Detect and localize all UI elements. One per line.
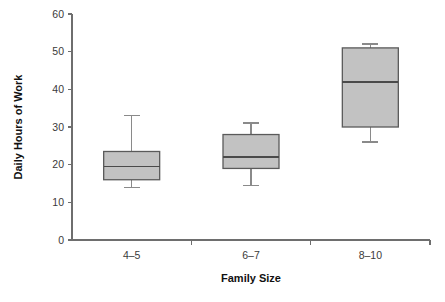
box-body: [223, 135, 279, 169]
y-axis-tick-label: 30: [52, 121, 64, 133]
y-axis-tick-label: 10: [52, 196, 64, 208]
box-plot-item: [104, 116, 160, 188]
x-axis-title: Family Size: [221, 272, 281, 284]
y-axis-tick-label: 0: [58, 234, 64, 246]
box-plot-item: [223, 123, 279, 185]
y-axis-tick-label: 50: [52, 45, 64, 57]
box-series: [104, 44, 399, 187]
chart-canvas: 0102030405060 4–56–78–10 Family SizeDail…: [0, 0, 445, 302]
y-axis-tick-label: 40: [52, 83, 64, 95]
y-axis-tick-label: 60: [52, 8, 64, 20]
box-plot-chart: 0102030405060 4–56–78–10 Family SizeDail…: [0, 0, 445, 302]
x-axis: 4–56–78–10: [72, 240, 430, 261]
x-axis-tick-label: 8–10: [359, 249, 383, 261]
box-body: [104, 151, 160, 179]
box-plot-item: [342, 44, 398, 142]
box-body: [342, 48, 398, 127]
x-axis-tick-label: 4–5: [123, 249, 141, 261]
x-axis-tick-label: 6–7: [242, 249, 260, 261]
y-axis-title: Daily Hours of Work: [12, 74, 24, 180]
y-axis-tick-label: 20: [52, 158, 64, 170]
y-axis: 0102030405060: [52, 8, 72, 246]
